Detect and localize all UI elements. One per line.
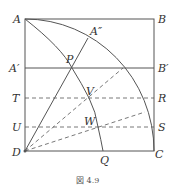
figure-caption: 図 4.9 [76,176,99,185]
label-b: B [157,13,166,26]
label-v: V [86,85,95,98]
label-a1: A′ [8,62,20,75]
label-w: W [84,115,97,128]
label-q: Q [100,154,109,167]
label-b1: B′ [157,62,169,75]
label-c: C [155,148,164,161]
label-d: D [11,146,21,159]
point-d-dot [24,150,27,153]
label-t: T [12,92,21,105]
label-u: U [12,121,22,134]
label-p: P [65,53,74,66]
label-a: A [12,13,21,26]
label-r: R [157,92,166,105]
line-d-a2 [25,38,88,151]
label-a2: A″ [89,25,103,38]
dashed-d-v [25,68,123,151]
label-s: S [158,121,166,134]
quadratrix-diagram: A B A″ P A′ B′ T V R U W S D Q C 図 4.9 [0,0,178,196]
